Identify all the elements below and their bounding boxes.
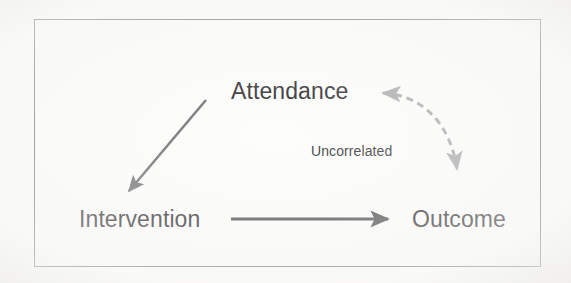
node-label-outcome: Outcome <box>412 208 506 231</box>
arrow-attendance-to-intervention <box>129 100 206 191</box>
edge-label-uncorrelated: Uncorrelated <box>311 144 392 158</box>
diagram-canvas: Attendance Intervention Outcome Uncorrel… <box>0 0 571 283</box>
diagram-arrows-layer <box>0 0 571 283</box>
node-label-attendance: Attendance <box>231 80 348 103</box>
node-label-intervention: Intervention <box>79 208 200 231</box>
arrow-attendance-outcome-uncorrelated <box>383 93 457 169</box>
